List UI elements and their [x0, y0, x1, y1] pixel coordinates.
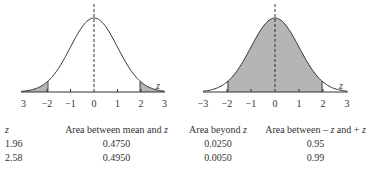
- header-area-mean-z: Area between mean and z: [60, 123, 173, 137]
- cell-area-mean: 0.4750: [60, 137, 173, 151]
- tick-label: −1: [65, 98, 76, 109]
- header-area-between: Area between – z and + z: [263, 123, 368, 137]
- cell-z: 1.96: [5, 137, 60, 151]
- axis-label-z: z: [156, 80, 160, 91]
- cell-z: 2.58: [5, 151, 60, 165]
- tick-label: −2: [222, 98, 233, 109]
- tick-label: 3: [21, 98, 26, 109]
- tick-label: 2: [139, 98, 144, 109]
- axis-label-z: z: [339, 80, 343, 91]
- cell-area-between: 0.99: [263, 151, 368, 165]
- tick-label: 1: [297, 98, 302, 109]
- cell-area-beyond: 0.0050: [173, 151, 263, 165]
- tick-label: 1: [115, 98, 120, 109]
- cell-area-between: 0.95: [263, 137, 368, 151]
- header-z: z: [5, 123, 60, 137]
- z-table: z Area between mean and z Area beyond z …: [5, 123, 368, 165]
- tick-label: 3: [345, 98, 350, 109]
- tick-label: 0: [92, 98, 97, 109]
- cell-area-beyond: 0.0250: [173, 137, 263, 151]
- tick-label: −1: [246, 98, 257, 109]
- tick-label: 3: [162, 98, 167, 109]
- table-row: 1.96 0.4750 0.0250 0.95: [5, 137, 368, 151]
- table-row: 2.58 0.4950 0.0050 0.99: [5, 151, 368, 165]
- tick-label: −2: [42, 98, 53, 109]
- cell-area-mean: 0.4950: [60, 151, 173, 165]
- tick-label: −3: [198, 98, 209, 109]
- tick-label: 2: [321, 98, 326, 109]
- table-header-row: z Area between mean and z Area beyond z …: [5, 123, 368, 137]
- header-area-beyond-z: Area beyond z: [173, 123, 263, 137]
- normal-curve: [21, 18, 164, 91]
- tick-label: 0: [273, 98, 278, 109]
